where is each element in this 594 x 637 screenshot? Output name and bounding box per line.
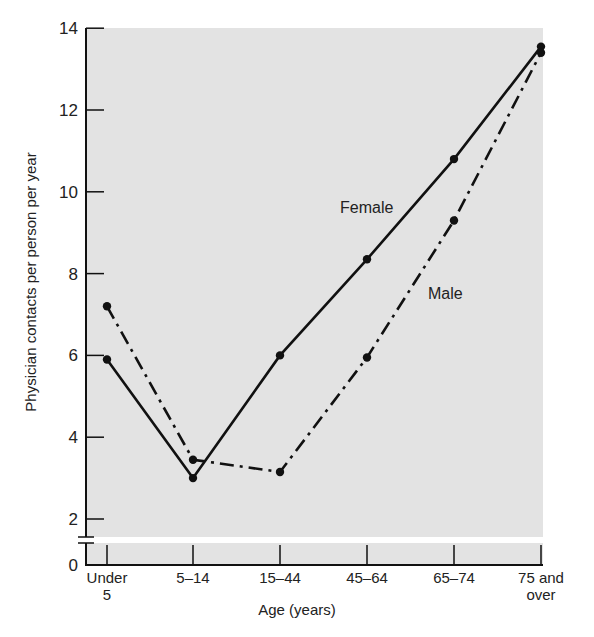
- x-tick-label: 45–64: [346, 569, 388, 586]
- series-label-female: Female: [340, 199, 393, 216]
- y-tick-label: 8: [69, 265, 78, 284]
- x-tick-label: 5–14: [176, 569, 209, 586]
- y-axis-title: Physician contacts per person per year: [22, 152, 39, 411]
- y-tick-label: 6: [69, 346, 78, 365]
- data-point: [537, 49, 545, 57]
- data-point: [363, 255, 371, 263]
- x-tick-label: 5: [103, 586, 111, 603]
- y-tick-label: 4: [69, 428, 78, 447]
- y-tick-label: 10: [59, 183, 78, 202]
- data-point: [363, 353, 371, 361]
- x-tick-label: 65–74: [433, 569, 475, 586]
- y-tick-label: 12: [59, 101, 78, 120]
- y-tick-label: 2: [69, 510, 78, 529]
- x-axis-title: Age (years): [258, 601, 336, 618]
- data-point: [450, 155, 458, 163]
- data-point: [450, 216, 458, 224]
- plot-background: [86, 28, 543, 565]
- line-chart: 02468101214Under55–1415–4445–6465–7475 a…: [0, 0, 594, 637]
- series-label-male: Male: [428, 285, 463, 302]
- x-tick-label: 75 and: [518, 569, 564, 586]
- x-tick-label: Under: [87, 569, 128, 586]
- data-point: [103, 355, 111, 363]
- data-point: [103, 302, 111, 310]
- y-tick-label: 14: [59, 19, 78, 38]
- data-point: [189, 455, 197, 463]
- x-tick-label: 15–44: [259, 569, 301, 586]
- data-point: [189, 474, 197, 482]
- x-tick-label: over: [526, 586, 555, 603]
- y-tick-label: 0: [69, 556, 78, 575]
- data-point: [276, 468, 284, 476]
- data-point: [276, 351, 284, 359]
- plot-area-upper: [86, 28, 543, 537]
- plot-area-lower: [86, 543, 543, 565]
